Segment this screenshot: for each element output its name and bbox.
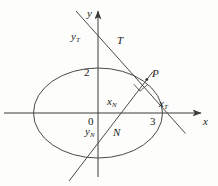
x-axis-tick-label-3: 3 [150, 116, 156, 127]
normal-y-intercept-label: yN [85, 126, 95, 138]
y-axis-tick-label-2: 2 [84, 67, 90, 78]
tangent-line-label: T [117, 35, 123, 46]
point-p-marker [145, 78, 148, 81]
figure-canvas [0, 0, 218, 186]
normal-x-intercept-sub: N [112, 101, 117, 108]
point-p-label: P [152, 68, 159, 79]
normal-x-intercept-label: xN [107, 96, 117, 108]
tangent-x-intercept-sub: T [164, 103, 168, 110]
x-axis-label: x [203, 116, 208, 127]
normal-line [69, 72, 153, 182]
tangent-x-intercept-label: xT [159, 98, 168, 110]
tangent-y-intercept-sub: T [76, 36, 80, 43]
y-axis-label: y [87, 8, 92, 19]
normal-y-intercept-sub: N [90, 131, 95, 138]
normal-line-label: N [113, 127, 120, 138]
tangent-y-intercept-label: yT [71, 31, 80, 43]
geometry-figure: y x yT T 2 P xT xN 0 3 yN N [0, 0, 218, 186]
